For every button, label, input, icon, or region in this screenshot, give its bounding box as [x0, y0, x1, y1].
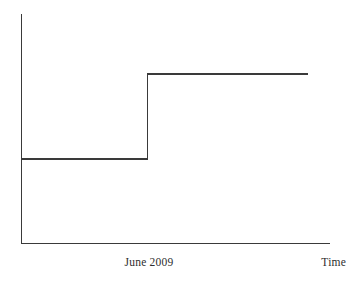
chart-canvas	[0, 0, 359, 285]
x-axis-title: Time	[0, 256, 346, 268]
series-group	[21, 74, 308, 159]
step-function-series	[21, 74, 308, 159]
axes-group	[21, 14, 330, 244]
step-chart-figure: June 2009 Time	[0, 0, 359, 285]
